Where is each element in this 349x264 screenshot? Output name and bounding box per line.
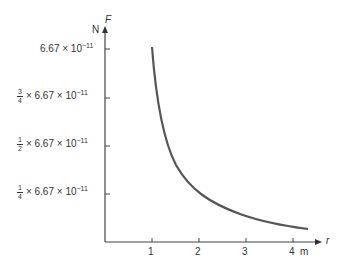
y-axis-label: F — [105, 14, 111, 25]
y-axis-unit: N — [92, 24, 99, 35]
y-tick-label: 12× 6.67 × 10−11 — [17, 136, 88, 153]
x-axis-label: r — [326, 235, 329, 246]
fraction: 34 — [17, 88, 23, 105]
y-tick-label: 6.67 × 10−11 — [40, 42, 93, 54]
chart-plot — [0, 0, 349, 264]
x-tick-label: 1 — [148, 246, 154, 257]
y-axis-arrow-icon — [102, 26, 108, 33]
y-tick-label: 34× 6.67 × 10−11 — [17, 88, 88, 105]
force-vs-distance-chart: F N r m 1 2 3 4 6.67 × 10−11 34× 6.67 × … — [0, 0, 349, 264]
x-axis-arrow-icon — [315, 239, 322, 245]
fraction: 14 — [17, 184, 23, 201]
x-tick-label: 3 — [242, 246, 248, 257]
y-tick-label: 14× 6.67 × 10−11 — [17, 184, 88, 201]
fraction: 12 — [17, 136, 23, 153]
y-ticks — [105, 49, 110, 194]
force-curve — [152, 47, 308, 229]
x-tick-label: 2 — [195, 246, 201, 257]
x-axis-unit: m — [300, 246, 308, 257]
x-tick-label: 4 — [289, 246, 295, 257]
